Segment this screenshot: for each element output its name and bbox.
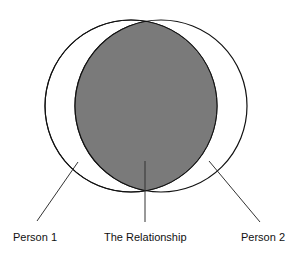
venn-diagram — [0, 0, 297, 257]
person1-label: Person 1 — [13, 231, 57, 243]
person2-pointer — [209, 161, 260, 222]
person1-pointer — [37, 162, 78, 221]
relationship-overlap — [75, 20, 247, 192]
relationship-label: The Relationship — [104, 231, 187, 243]
person2-label: Person 2 — [241, 231, 285, 243]
